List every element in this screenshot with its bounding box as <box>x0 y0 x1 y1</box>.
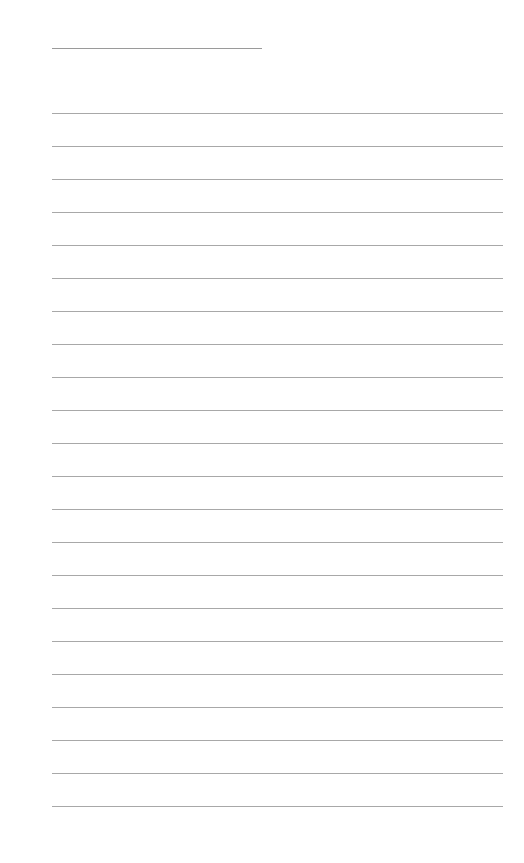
ruled-line <box>52 740 503 741</box>
ruled-line <box>52 344 503 345</box>
ruled-line <box>52 608 503 609</box>
ruled-line <box>52 641 503 642</box>
ruled-line <box>52 377 503 378</box>
ruled-line <box>52 410 503 411</box>
ruled-line <box>52 476 503 477</box>
ruled-line <box>52 245 503 246</box>
ruled-line <box>52 509 503 510</box>
ruled-line <box>52 113 503 114</box>
ruled-line <box>52 212 503 213</box>
ruled-line <box>52 443 503 444</box>
ruled-line <box>52 806 503 807</box>
title-line <box>52 48 262 49</box>
ruled-line <box>52 278 503 279</box>
ruled-line <box>52 542 503 543</box>
ruled-line <box>52 146 503 147</box>
ruled-line <box>52 311 503 312</box>
ruled-line <box>52 707 503 708</box>
ruled-line <box>52 575 503 576</box>
ruled-line <box>52 179 503 180</box>
ruled-line <box>52 674 503 675</box>
ruled-line <box>52 773 503 774</box>
